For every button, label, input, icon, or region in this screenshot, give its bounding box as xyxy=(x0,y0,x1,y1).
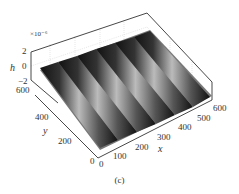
x-tick: 300 xyxy=(157,133,171,142)
x-tick: 600 xyxy=(213,104,227,113)
x-tick: 200 xyxy=(135,143,149,152)
x-axis-label: x xyxy=(158,143,162,154)
figure-caption: (c) xyxy=(0,175,239,185)
y-tick: 200 xyxy=(58,137,72,146)
x-tick: 400 xyxy=(178,123,192,132)
z-tick: 0 xyxy=(22,62,27,71)
y-tick: 600 xyxy=(16,86,30,95)
z-scale-label: ×10⁻⁶ xyxy=(30,30,47,38)
z-axis-label: h xyxy=(10,62,15,73)
surface-ridges xyxy=(40,30,212,150)
y-tick: 0 xyxy=(90,157,95,166)
x-tick: 500 xyxy=(197,114,211,123)
y-tick: 400 xyxy=(35,113,49,122)
z-tick: 2 xyxy=(22,47,27,56)
x-tick: 100 xyxy=(113,152,127,161)
y-axis-label: y xyxy=(43,125,47,136)
x-tick: 0 xyxy=(99,160,104,169)
